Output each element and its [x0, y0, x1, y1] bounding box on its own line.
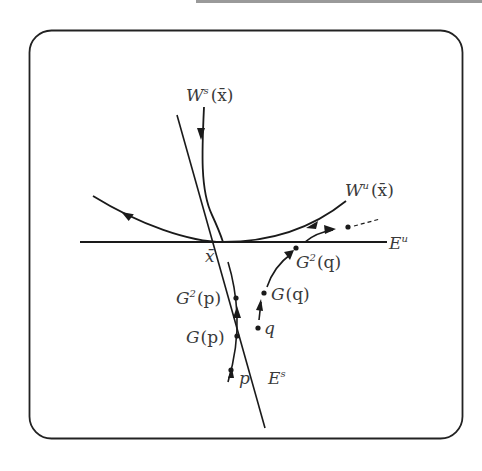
stable-unstable-manifold-diagram: Ws(x̄) Wu(x̄) Eu Es x̄ p G(p) G2(p) q G(… — [0, 0, 482, 471]
q-orbit-arrow-icon — [256, 299, 263, 311]
q-label: q — [264, 318, 275, 338]
G2q-label: G2(q) — [296, 252, 341, 272]
fixed-point-label: x̄ — [205, 246, 215, 266]
continuation-dashed-line — [354, 219, 380, 226]
unstable-manifold-curve — [93, 196, 346, 242]
unstable-subspace-label: Eu — [388, 233, 408, 253]
Gq-point — [261, 290, 266, 295]
p-label: p — [239, 368, 250, 388]
G2p-label: G2(p) — [176, 288, 221, 308]
Gp-point — [234, 333, 239, 338]
G2q-onward-arrow-icon — [324, 225, 336, 234]
G2q-point — [293, 245, 298, 250]
q-point — [255, 325, 260, 330]
Gq-to-G2q-segment — [267, 254, 291, 287]
Gp-label: G(p) — [186, 327, 225, 347]
stable-subspace-label: Es — [267, 368, 286, 388]
stable-subspace-line — [177, 115, 265, 428]
stable-manifold-label: Ws(x̄) — [186, 85, 233, 105]
stable-manifold-curve — [202, 107, 223, 242]
G2p-point — [233, 295, 238, 300]
p-orbit-arrow-icon — [233, 306, 241, 318]
unstable-manifold-label: Wu(x̄) — [345, 180, 394, 200]
Gq-label: G(q) — [271, 284, 310, 304]
G3q-point — [345, 224, 350, 229]
